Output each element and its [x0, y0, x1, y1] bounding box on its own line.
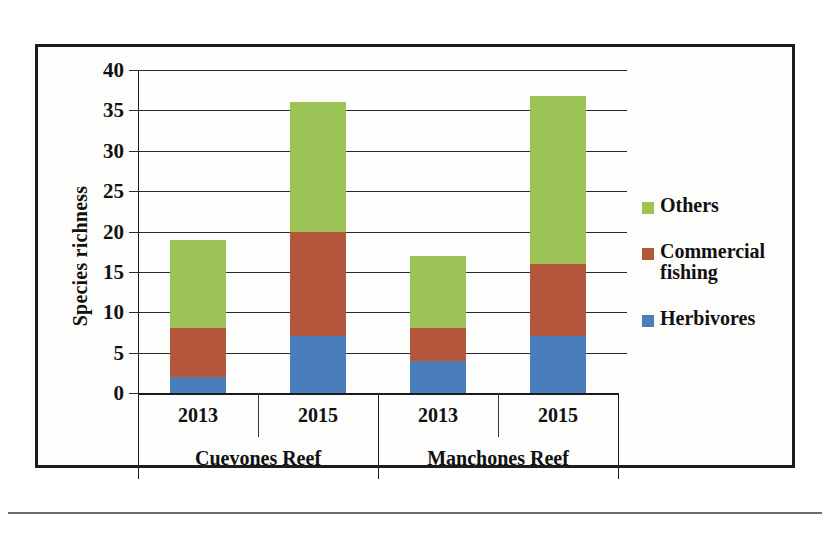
bar-segment-others — [290, 102, 346, 231]
y-tick-mark-25 — [129, 191, 138, 192]
bar-segment-herbivores — [170, 377, 226, 393]
category-axis-year-separator — [498, 393, 499, 437]
chart-legend: OthersCommercial fishingHerbivores — [642, 195, 792, 353]
category-axis-year-row: 2013201520132015 — [138, 393, 618, 437]
legend-label: Herbivores — [660, 308, 755, 330]
y-tick-mark-5 — [129, 353, 138, 354]
bar-manchones-reef-2015[interactable] — [530, 96, 586, 393]
bar-cuevones-reef-2013[interactable] — [170, 240, 226, 393]
y-tick-mark-10 — [129, 312, 138, 313]
y-tick-label-0: 0 — [114, 381, 125, 406]
y-tick-mark-right-35 — [618, 110, 627, 111]
category-label-year-0: 2013 — [138, 393, 258, 437]
bar-segment-commercial-fishing — [170, 328, 226, 376]
legend-swatch-herbivores-icon — [642, 315, 654, 327]
bar-segment-commercial-fishing — [410, 328, 466, 360]
y-tick-label-30: 30 — [103, 138, 124, 163]
legend-swatch-commercial-fishing-icon — [642, 248, 654, 260]
bar-series-container — [138, 70, 618, 393]
y-tick-mark-right-10 — [618, 312, 627, 313]
legend-item-herbivores[interactable]: Herbivores — [642, 308, 792, 330]
y-tick-label-35: 35 — [103, 98, 124, 123]
plot-area: 4035302520151050 — [138, 70, 618, 393]
legend-item-commercial-fishing[interactable]: Commercial fishing — [642, 241, 792, 284]
y-tick-label-5: 5 — [114, 340, 125, 365]
bar-segment-herbivores — [410, 361, 466, 393]
y-tick-mark-35 — [129, 110, 138, 111]
category-label-year-2: 2013 — [378, 393, 498, 437]
category-axis: 2013201520132015 Cuevones ReefManchones … — [138, 393, 618, 479]
y-tick-mark-right-40 — [618, 70, 627, 71]
category-axis-year-separator — [258, 393, 259, 437]
y-tick-label-25: 25 — [103, 179, 124, 204]
y-tick-mark-right-30 — [618, 151, 627, 152]
legend-label: Commercial fishing — [660, 241, 792, 284]
y-tick-mark-40 — [129, 70, 138, 71]
y-tick-label-15: 15 — [103, 259, 124, 284]
category-label-site-1: Manchones Reef — [378, 437, 618, 479]
bar-segment-herbivores — [530, 336, 586, 393]
chart-plot: Species richness 4035302520151050 201320… — [38, 47, 792, 465]
bar-segment-herbivores — [290, 336, 346, 393]
y-tick-mark-30 — [129, 151, 138, 152]
y-tick-mark-0 — [129, 393, 138, 394]
category-label-site-0: Cuevones Reef — [138, 437, 378, 479]
category-axis-right-edge — [618, 393, 619, 479]
y-tick-mark-right-15 — [618, 272, 627, 273]
bar-segment-commercial-fishing — [290, 232, 346, 337]
legend-swatch-others-icon — [642, 202, 654, 214]
bar-segment-others — [170, 240, 226, 329]
y-tick-mark-right-20 — [618, 232, 627, 233]
legend-item-others[interactable]: Others — [642, 195, 792, 217]
y-tick-label-20: 20 — [103, 219, 124, 244]
category-axis-site-row: Cuevones ReefManchones Reef — [138, 437, 618, 479]
y-tick-mark-15 — [129, 272, 138, 273]
y-tick-mark-20 — [129, 232, 138, 233]
category-label-year-1: 2015 — [258, 393, 378, 437]
bar-cuevones-reef-2015[interactable] — [290, 102, 346, 393]
y-tick-mark-right-5 — [618, 353, 627, 354]
y-tick-label-40: 40 — [103, 58, 124, 83]
legend-label: Others — [660, 195, 719, 217]
y-axis-title: Species richness — [69, 186, 92, 326]
bar-segment-commercial-fishing — [530, 264, 586, 337]
y-tick-label-10: 10 — [103, 300, 124, 325]
bar-segment-others — [530, 96, 586, 264]
bar-segment-others — [410, 256, 466, 329]
page-horizontal-rule — [8, 512, 822, 514]
y-tick-mark-right-25 — [618, 191, 627, 192]
figure-frame: Species richness 4035302520151050 201320… — [35, 44, 795, 468]
category-label-year-3: 2015 — [498, 393, 618, 437]
bar-manchones-reef-2013[interactable] — [410, 256, 466, 393]
